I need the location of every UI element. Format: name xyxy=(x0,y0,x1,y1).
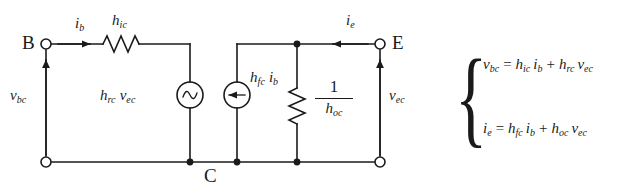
label-one-over-h-oc: 1 hoc xyxy=(315,78,353,118)
junction-dot-vsource xyxy=(187,159,194,166)
equation-vbc: vbc = hicib + hrcvec xyxy=(483,56,593,74)
terminal-marker-b xyxy=(41,39,51,49)
terminal-marker-e xyxy=(375,39,385,49)
terminal-label-e: E xyxy=(392,33,404,52)
resistor-h-oc-body xyxy=(289,88,305,124)
terminal-label-b: B xyxy=(22,33,35,52)
label-h-ic: hic xyxy=(112,13,127,30)
fraction-bar xyxy=(315,98,353,99)
resistor-h-ic-body xyxy=(103,36,139,52)
label-ie: ie xyxy=(346,13,355,30)
voltage-source-sine xyxy=(183,91,197,98)
terminal-label-c: C xyxy=(204,166,217,185)
terminal-marker-bottom-left xyxy=(41,157,51,167)
equation-ie: ie = hfcib + hocvec xyxy=(483,120,587,138)
label-ib: ib xyxy=(75,16,84,33)
circuit-figure: B E C ib ie vbc vec hic hrcvec hfcib 1 h… xyxy=(0,0,642,194)
junction-dot-resistor-bottom xyxy=(294,159,301,166)
label-vbc: vbc xyxy=(10,88,26,105)
junction-dot-isource xyxy=(234,159,241,166)
junction-dot-resistor-top xyxy=(294,41,301,48)
label-vec: vec xyxy=(389,88,405,105)
equation-group: { vbc = hicib + hrcvec ie = hfcib + hocv… xyxy=(455,48,642,156)
terminal-marker-bottom-right xyxy=(375,157,385,167)
label-h-fc-ib: hfcib xyxy=(250,70,278,87)
label-h-rc-vec: hrcvec xyxy=(100,88,135,105)
